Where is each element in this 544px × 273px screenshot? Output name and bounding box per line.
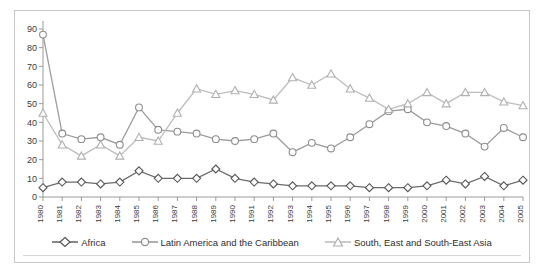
- x-axis-tick-label: 1981: [55, 204, 64, 222]
- data-point-marker: [385, 184, 393, 192]
- data-point-marker: [308, 182, 316, 190]
- line-chart-plot: 0102030405060708090198019811982198319841…: [15, 11, 529, 262]
- x-axis-tick-label: 1998: [382, 204, 391, 222]
- data-point-marker: [212, 165, 220, 173]
- x-axis-tick-label: 1995: [324, 204, 333, 222]
- x-axis-tick-label: 1997: [362, 204, 371, 222]
- data-point-marker: [481, 172, 489, 180]
- data-point-marker: [97, 180, 105, 188]
- data-point-marker: [404, 184, 412, 192]
- data-point-marker: [270, 130, 277, 137]
- y-axis-tick-label: 50: [27, 99, 37, 109]
- chart-legend: Africa Latin America and the Caribbean S…: [15, 236, 529, 248]
- data-point-marker: [327, 182, 335, 190]
- data-point-marker: [269, 180, 277, 188]
- data-point-marker: [77, 178, 85, 186]
- data-point-marker: [251, 136, 258, 143]
- data-point-marker: [462, 130, 469, 137]
- legend-item-latin-america[interactable]: Latin America and the Caribbean: [132, 236, 299, 248]
- x-axis-tick-label: 1985: [132, 204, 141, 222]
- x-axis-tick-label: 2001: [439, 204, 448, 222]
- data-point-marker: [136, 104, 143, 111]
- y-axis-tick-label: 40: [27, 118, 37, 128]
- data-point-marker: [78, 136, 85, 143]
- x-axis-tick-label: 1999: [401, 204, 410, 222]
- data-point-marker: [155, 126, 162, 133]
- x-axis-tick-label: 1992: [266, 204, 275, 222]
- y-axis-tick-label: 90: [27, 24, 37, 34]
- data-point-marker: [327, 70, 335, 77]
- data-point-marker: [346, 182, 354, 190]
- data-point-marker: [250, 178, 258, 186]
- data-point-marker: [404, 100, 412, 107]
- data-point-marker: [173, 174, 181, 182]
- data-point-marker: [232, 138, 239, 145]
- x-axis-tick-label: 2005: [516, 204, 525, 222]
- data-point-marker: [308, 139, 315, 146]
- data-point-marker: [365, 184, 373, 192]
- data-point-marker: [58, 141, 66, 148]
- data-point-marker: [231, 87, 239, 94]
- x-axis-tick-label: 1990: [228, 204, 237, 222]
- legend-label-africa: Africa: [81, 237, 105, 248]
- data-point-marker: [59, 130, 66, 137]
- legend-marker-diamond-icon: [52, 236, 78, 248]
- data-point-marker: [461, 180, 469, 188]
- data-point-marker: [424, 119, 431, 126]
- data-point-marker: [366, 121, 373, 128]
- chart-container: 0102030405060708090198019811982198319841…: [14, 10, 530, 263]
- data-point-marker: [500, 98, 508, 105]
- x-axis-tick-label: 1996: [343, 204, 352, 222]
- data-point-marker: [40, 31, 47, 38]
- data-point-marker: [135, 133, 143, 140]
- legend-label-asia: South, East and South-East Asia: [354, 237, 492, 248]
- legend-marker-circle-icon: [132, 236, 158, 248]
- x-axis-tick-label: 2002: [458, 204, 467, 222]
- data-point-marker: [481, 143, 488, 150]
- series-latin-america-and-the-caribbean: [40, 31, 527, 155]
- y-axis-tick-label: 20: [27, 155, 37, 165]
- x-axis-tick-label: 1994: [305, 204, 314, 222]
- x-axis-tick-label: 2004: [497, 204, 506, 222]
- x-axis-tick-label: 1982: [74, 204, 83, 222]
- data-point-marker: [39, 184, 47, 192]
- data-point-marker: [443, 123, 450, 130]
- data-point-marker: [135, 167, 143, 175]
- x-axis-tick-label: 1989: [209, 204, 218, 222]
- x-axis-tick-label: 1986: [151, 204, 160, 222]
- data-point-marker: [442, 176, 450, 184]
- data-point-marker: [347, 134, 354, 141]
- data-point-marker: [442, 100, 450, 107]
- y-axis-tick-label: 30: [27, 136, 37, 146]
- y-axis-tick-label: 0: [32, 192, 37, 202]
- legend-label-latin-america: Latin America and the Caribbean: [161, 237, 299, 248]
- x-axis-tick-label: 1991: [247, 204, 256, 222]
- y-axis-tick-label: 70: [27, 62, 37, 72]
- data-point-marker: [97, 141, 105, 148]
- data-point-marker: [519, 176, 527, 184]
- x-axis-tick-label: 1987: [170, 204, 179, 222]
- data-point-marker: [116, 178, 124, 186]
- y-axis-tick-label: 80: [27, 43, 37, 53]
- data-point-marker: [289, 182, 297, 190]
- data-point-marker: [193, 85, 201, 92]
- data-point-marker: [154, 174, 162, 182]
- data-point-marker: [39, 109, 47, 116]
- data-point-marker: [289, 74, 297, 81]
- data-point-marker: [423, 182, 431, 190]
- data-point-marker: [58, 178, 66, 186]
- legend-item-africa[interactable]: Africa: [52, 236, 105, 248]
- data-point-marker: [116, 141, 123, 148]
- data-point-marker: [77, 152, 85, 159]
- x-axis-tick-label: 1983: [94, 204, 103, 222]
- data-point-marker: [328, 145, 335, 152]
- x-axis-tick-label: 1980: [36, 204, 45, 222]
- x-axis-tick-label: 2003: [478, 204, 487, 222]
- y-axis-tick-label: 60: [27, 80, 37, 90]
- legend-item-asia[interactable]: South, East and South-East Asia: [325, 236, 492, 248]
- x-axis-tick-label: 1988: [190, 204, 199, 222]
- data-point-marker: [520, 134, 527, 141]
- x-axis-tick-label: 1993: [286, 204, 295, 222]
- data-point-marker: [174, 128, 181, 135]
- data-point-marker: [423, 88, 431, 95]
